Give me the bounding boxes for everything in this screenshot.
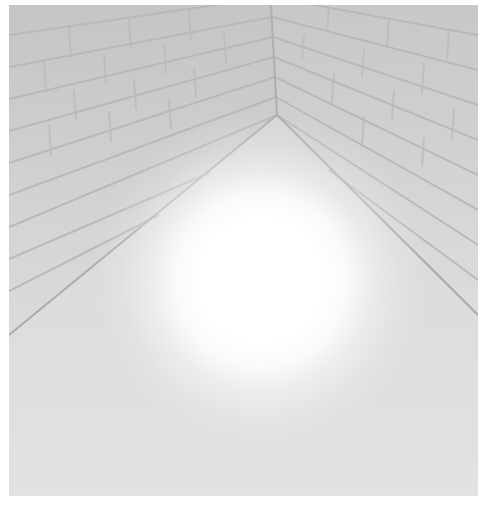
brick-corner-render	[9, 5, 478, 496]
brick-walls	[9, 5, 478, 496]
